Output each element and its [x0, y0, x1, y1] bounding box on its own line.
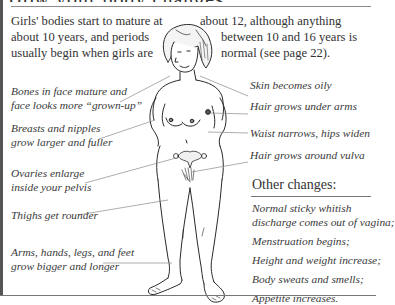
- label-line: inside your pelvis: [11, 180, 91, 194]
- label-line: Thighs get rounder: [11, 208, 98, 222]
- label-line: grow bigger and longer: [11, 259, 134, 273]
- label-vulva-hair: Hair grows around vulva: [250, 148, 365, 162]
- other-changes-title: Other changes:: [252, 177, 336, 193]
- label-underarm-hair: Hair grows under arms: [250, 99, 357, 113]
- other-changes-rule: [251, 196, 371, 197]
- page-bottom-rule: [0, 295, 376, 296]
- label-line: Breasts and nipples: [11, 121, 112, 135]
- change-item: Appetite increases.: [252, 291, 395, 305]
- label-line: Arms, hands, legs, and feet: [11, 245, 134, 259]
- label-skin: Skin becomes oily: [250, 78, 332, 92]
- label-thighs: Thighs get rounder: [11, 208, 98, 222]
- label-limbs: Arms, hands, legs, and feet grow bigger …: [11, 245, 134, 273]
- change-item: Body sweats and smells;: [252, 272, 395, 286]
- change-item: Height and weight increase;: [252, 253, 395, 267]
- change-line: discharge comes out of vagina;: [252, 215, 395, 229]
- label-line: Bones in face mature and: [11, 84, 142, 98]
- change-item: Normal sticky whitish discharge comes ou…: [252, 201, 395, 229]
- change-item: Menstruation begins;: [252, 234, 395, 248]
- label-line: Ovaries enlarge: [11, 166, 91, 180]
- change-line: Normal sticky whitish: [252, 201, 395, 215]
- label-ovaries: Ovaries enlarge inside your pelvis: [11, 166, 91, 194]
- label-line: face looks more “grown-up”: [11, 98, 142, 112]
- label-waist-hips: Waist narrows, hips widen: [250, 126, 370, 140]
- other-changes-list: Normal sticky whitish discharge comes ou…: [252, 201, 395, 305]
- label-line: grow larger and fuller: [11, 135, 112, 149]
- label-breasts: Breasts and nipples grow larger and full…: [11, 121, 112, 149]
- label-face-bones: Bones in face mature and face looks more…: [11, 84, 142, 112]
